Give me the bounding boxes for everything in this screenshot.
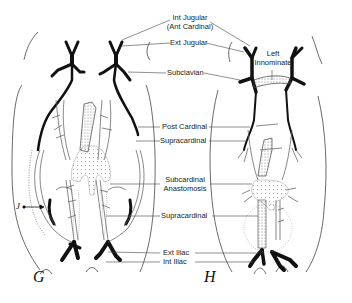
figure-g-inferior-vena-cava (80, 102, 96, 152)
figure-label-h: H (204, 268, 216, 286)
figure-g-subcardinal-mass (71, 146, 110, 195)
label-subcardinal: Subcardinal (160, 176, 210, 184)
marker-label-j: J (16, 201, 20, 211)
figure-h-dotted-circle (244, 204, 292, 252)
label-int-iliac: Int Iliac (163, 258, 187, 266)
label-left-innominate-line1: Left (256, 50, 290, 58)
figure-h-inferior-vena-cava (258, 138, 272, 176)
j-marker-arrow (23, 205, 44, 209)
label-ext-jugular: Ext Jugular (170, 39, 208, 47)
label-ant-cardinal: (Ant Cardinal) (166, 23, 214, 31)
label-ext-iliac: Ext Iliac (163, 249, 189, 257)
label-int-jugular: Int Jugular (170, 14, 210, 22)
figure-h-subcardinal-mass (252, 180, 289, 210)
label-subclavian: Subclavian (167, 69, 204, 77)
label-anastomosis: Anastomosis (160, 185, 210, 193)
label-left-innominate-line2: Innominate (252, 59, 294, 67)
figure-g-dotted-boundary (29, 150, 45, 235)
figure-label-g: G (33, 268, 45, 286)
label-supracardinal-upper: Supracardinal (160, 137, 206, 145)
label-supracardinal-lower: Supracardinal (161, 212, 207, 220)
label-post-cardinal: Post Cardinal (162, 123, 207, 131)
figure-h-supracardinal-column (258, 200, 266, 248)
